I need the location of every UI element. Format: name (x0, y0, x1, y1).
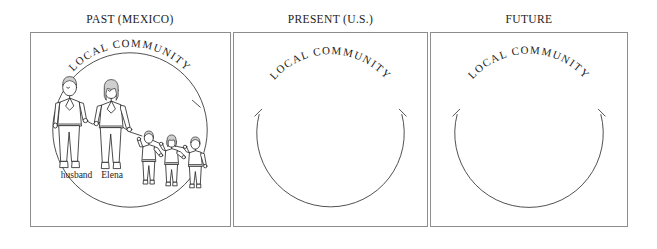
panel-future-canvas: LOCAL COMMUNITY (431, 33, 627, 226)
column-headers: PAST (MEXICO) PRESENT (U.S.) FUTURE (30, 12, 628, 32)
panel-past-canvas: LOCAL COMMUNITY (31, 33, 230, 226)
community-label-present: LOCAL COMMUNITY (267, 44, 394, 82)
arc-tick-right-past (192, 100, 200, 107)
community-label-past: LOCAL COMMUNITY (66, 37, 194, 74)
community-circle-present (257, 114, 404, 207)
person-figure-child-3 (183, 137, 207, 188)
community-label-future: LOCAL COMMUNITY (465, 44, 592, 81)
person-figure-elena (94, 80, 132, 169)
panel-present-canvas: LOCAL COMMUNITY (234, 33, 427, 226)
arc-tick-right-present (399, 109, 406, 116)
column-header-present: PRESENT (U.S.) (233, 12, 428, 26)
person-label-elena: Elena (101, 170, 123, 180)
community-circle-future (455, 114, 603, 207)
person-label-husband: husband (61, 170, 93, 180)
panel-past: LOCAL COMMUNITY (30, 32, 231, 227)
arc-tick-right-future (598, 109, 605, 116)
column-header-past: PAST (MEXICO) (30, 12, 230, 26)
panel-future: LOCAL COMMUNITY (430, 32, 628, 227)
person-figure-husband (53, 77, 87, 168)
person-figure-child-1 (137, 131, 163, 184)
person-figure-child-2 (159, 135, 185, 186)
column-header-future: FUTURE (430, 12, 628, 26)
network-diagram-figure: PAST (MEXICO) PRESENT (U.S.) FUTURE LOCA… (0, 0, 657, 249)
arc-tick-left-present (255, 109, 262, 116)
arc-tick-left-future (453, 109, 460, 116)
panel-present: LOCAL COMMUNITY (233, 32, 428, 227)
